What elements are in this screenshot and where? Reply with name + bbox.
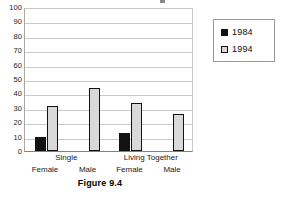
y-axis-tick-label: 40 xyxy=(0,90,22,98)
gridline xyxy=(25,52,192,53)
figure-caption: Figure 9.4 xyxy=(0,178,200,188)
gridline xyxy=(25,81,192,82)
y-axis-tick-label: 30 xyxy=(0,105,22,113)
x-axis-sub-label: Male xyxy=(163,165,180,174)
y-axis-tick-label: 10 xyxy=(0,134,22,142)
x-axis-group-label: Living Together xyxy=(124,153,178,162)
bar xyxy=(89,88,100,151)
cropped-title-sliver xyxy=(160,0,165,3)
gridline xyxy=(25,23,192,24)
gridline xyxy=(25,38,192,39)
y-axis-tick-label: 50 xyxy=(0,76,22,84)
figure-9-4: 1009080706050403020100 FemaleMaleFemaleM… xyxy=(0,0,289,197)
gridline xyxy=(25,95,192,96)
bar-chart: 1009080706050403020100 xyxy=(0,4,200,154)
legend-item-1994: 1994 xyxy=(221,43,253,55)
legend-swatch-1994-icon xyxy=(221,46,228,53)
y-axis-tick-label: 80 xyxy=(0,33,22,41)
legend-swatch-1984-icon xyxy=(221,29,228,36)
bar xyxy=(47,106,58,151)
legend-label-1984: 1984 xyxy=(232,28,253,37)
y-axis-tick-label: 20 xyxy=(0,119,22,127)
gridline xyxy=(25,67,192,68)
y-axis-tick-label: 60 xyxy=(0,62,22,70)
x-axis-sub-label: Female xyxy=(116,165,143,174)
legend-item-1984: 1984 xyxy=(221,26,253,38)
bar xyxy=(35,137,46,151)
bar xyxy=(173,114,184,151)
chart-legend: 1984 1994 xyxy=(213,19,275,62)
bar xyxy=(119,133,130,151)
x-axis-sub-label: Female xyxy=(32,165,59,174)
plot-area xyxy=(24,8,193,152)
y-axis-tick-label: 90 xyxy=(0,18,22,26)
x-axis-group-label: Single xyxy=(55,153,77,162)
legend-label-1994: 1994 xyxy=(232,45,253,54)
y-axis-tick-label: 70 xyxy=(0,47,22,55)
y-axis-tick-label: 100 xyxy=(0,4,22,12)
bar xyxy=(131,103,142,151)
x-axis-sub-label: Male xyxy=(79,165,96,174)
